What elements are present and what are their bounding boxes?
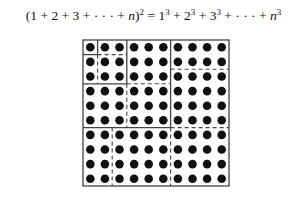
dot [130,72,139,81]
dot [188,131,197,140]
dot [144,87,153,96]
dot [159,87,168,96]
dot [203,87,212,96]
dot [130,116,139,125]
dot [115,145,124,154]
dot [174,43,183,52]
dot [203,58,212,67]
dot [86,43,95,52]
dot [144,174,153,183]
dot [115,43,124,52]
dot [188,145,197,154]
dot [217,58,226,67]
dot [217,72,226,81]
dot [159,101,168,110]
dot [115,160,124,169]
dot [174,174,183,183]
dot [101,160,110,169]
dot [188,87,197,96]
dot [217,101,226,110]
dot [144,145,153,154]
dot [115,174,124,183]
dot [130,87,139,96]
dot [144,72,153,81]
dot [144,116,153,125]
dot [159,160,168,169]
dot [86,160,95,169]
dot [159,43,168,52]
dot [130,101,139,110]
dot [203,43,212,52]
dot [217,43,226,52]
dot [174,72,183,81]
dot [130,58,139,67]
dot [101,72,110,81]
dot-grid-diagram [0,0,307,197]
dot [159,174,168,183]
dot [217,131,226,140]
dot [101,131,110,140]
dot [130,145,139,154]
dot [203,174,212,183]
dot [203,160,212,169]
dot [144,43,153,52]
dot [101,43,110,52]
dot [115,131,124,140]
dot [159,58,168,67]
dot [203,72,212,81]
dot [115,58,124,67]
dot [115,116,124,125]
dot [130,131,139,140]
dot [203,145,212,154]
dot [159,131,168,140]
dot [188,101,197,110]
dot [144,101,153,110]
dot [203,131,212,140]
dot [101,87,110,96]
dot [188,58,197,67]
dot [86,116,95,125]
dot [86,145,95,154]
dot [144,131,153,140]
dot [130,160,139,169]
dot [86,174,95,183]
dot [144,160,153,169]
dot [101,116,110,125]
dot [217,87,226,96]
dot [174,58,183,67]
dot [174,116,183,125]
dot [188,116,197,125]
dot [115,87,124,96]
dot [115,101,124,110]
dot [86,72,95,81]
dot [115,72,124,81]
dot [188,160,197,169]
dot [174,131,183,140]
dot [188,72,197,81]
dot [159,72,168,81]
dot [86,131,95,140]
dot [86,87,95,96]
dot [159,116,168,125]
dot [188,43,197,52]
dot [174,160,183,169]
dot [86,101,95,110]
dot [217,145,226,154]
dot [130,174,139,183]
dot [174,145,183,154]
dot [217,116,226,125]
dot [130,43,139,52]
dot [203,101,212,110]
dot [188,174,197,183]
dot [101,58,110,67]
dot [86,58,95,67]
dot [159,145,168,154]
dot [174,101,183,110]
dot [101,174,110,183]
dot [144,58,153,67]
dot [101,101,110,110]
dot [101,145,110,154]
dot [203,116,212,125]
dot [217,160,226,169]
dot [217,174,226,183]
